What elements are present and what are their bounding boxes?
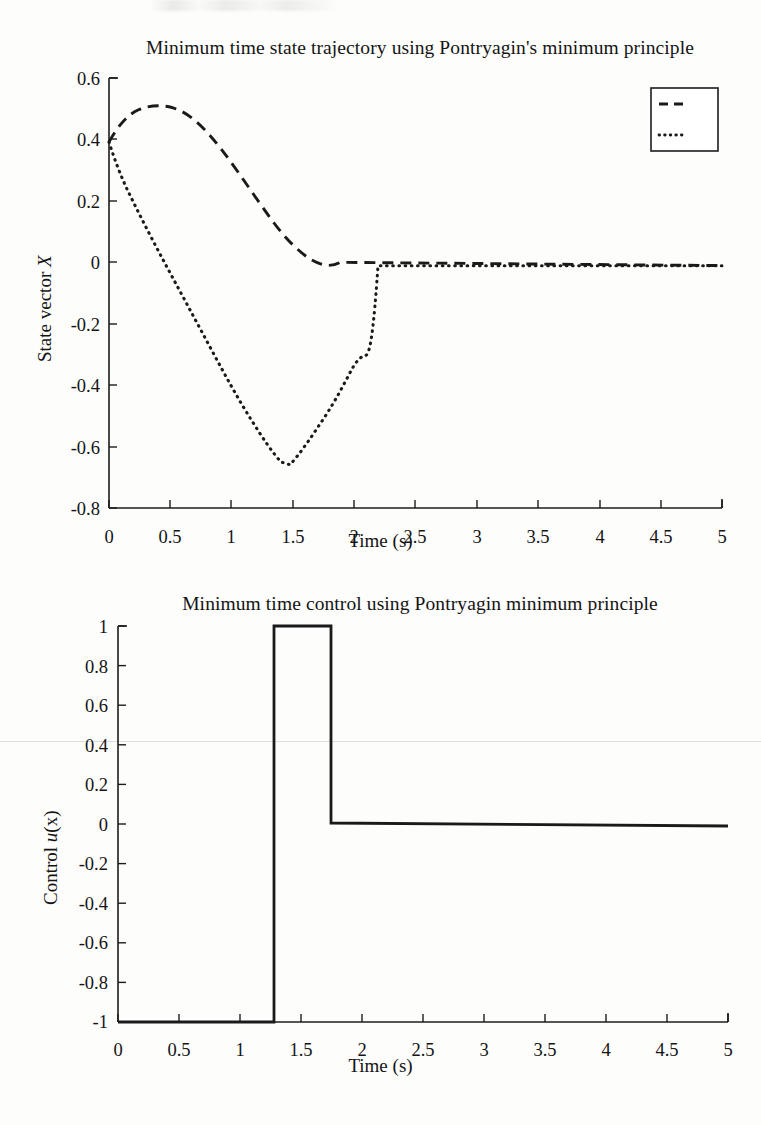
- plot-canvas-state-trajectory: [0, 22, 761, 567]
- series-x2-dotted: [109, 142, 722, 465]
- series-x1-dashed: [109, 106, 722, 266]
- x-axis-ticks: [109, 500, 722, 508]
- y-axis-ticks: [118, 626, 126, 1022]
- figure-control-signal: Minimum time control using Pontryagin mi…: [0, 585, 761, 1125]
- figure-page: Minimum time state trajectory using Pont…: [0, 0, 761, 1125]
- axes-frame: [109, 78, 722, 508]
- legend-box: [651, 88, 718, 151]
- figure-state-trajectory: Minimum time state trajectory using Pont…: [0, 22, 761, 567]
- scan-artifact-top: [150, 0, 340, 11]
- plot-canvas-control-signal: [0, 585, 761, 1125]
- series-control-u: [118, 626, 728, 1022]
